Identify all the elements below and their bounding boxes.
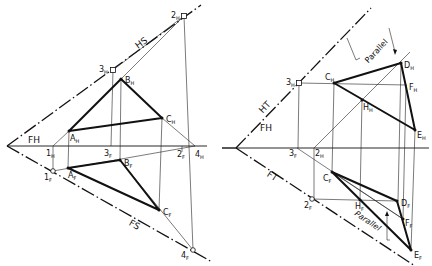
label-4f: 4F [181,251,189,261]
label-2h-right: 2H [315,149,324,159]
label-dh: DH [404,61,414,71]
label-2f: 2F [177,150,185,160]
projector-2-4 [184,16,193,250]
label-3h-right: 3H [286,78,295,88]
label-ff: FF [405,219,413,229]
descriptive-geometry-figure: FH HS FS 2H 3H BH CH AH 1H 3F 2F 4H 1F A… [0,0,432,266]
fs-label: FS [127,218,141,232]
left-drawing: FH HS FS 2H 3H BH CH AH 1H 3F 2F 4H 1F A… [7,5,212,262]
label-3f-right: 3F [289,149,297,159]
triangle-cde-frontal [332,172,411,250]
label-df: DF [401,199,410,209]
label-4h: 4H [195,150,204,160]
label-bf: BF [124,159,133,169]
point-1f-marker [51,169,56,174]
label-cf: CF [163,208,172,218]
point-2f-marker-right [310,197,315,202]
ft-label: FT [265,169,280,183]
point-3h-marker-right [297,81,302,86]
label-1f: 1F [44,173,52,183]
triangle-cde-horizontal [334,63,415,130]
fs-trace-line [7,146,212,262]
hs-label: HS [133,35,149,51]
right-fh-label: FH [260,123,272,133]
label-2h: 2H [171,11,180,21]
label-2f-right: 2F [304,201,312,211]
label-cf-right: CF [323,174,332,184]
label-3h: 3H [99,65,108,75]
label-eh: EH [417,131,426,141]
label-1h: 1H [46,149,55,159]
label-ch: CH [166,115,176,125]
parallel-label-top: Parallel [363,37,389,64]
label-ah: AH [70,134,79,144]
label-ch-right: CH [325,73,335,83]
label-bh: BH [125,76,135,86]
label-ef: EF [414,251,422,261]
point-4f-marker [191,248,196,253]
right-drawing: FH HT FT Parallel Parallel 3H CH DH FH H… [222,8,429,266]
point-3h-marker [111,68,116,73]
triangle-abc-frontal [68,160,159,210]
left-fh-label: FH [28,135,40,145]
label-af: AF [68,171,76,181]
label-fh: FH [409,83,418,93]
parallel-label-bottom: Parallel [353,209,383,233]
ft-trace-line [236,148,415,266]
label-3f: 3F [104,149,112,159]
triangle-abc-horizontal [69,79,162,131]
point-2h-marker [182,14,187,19]
